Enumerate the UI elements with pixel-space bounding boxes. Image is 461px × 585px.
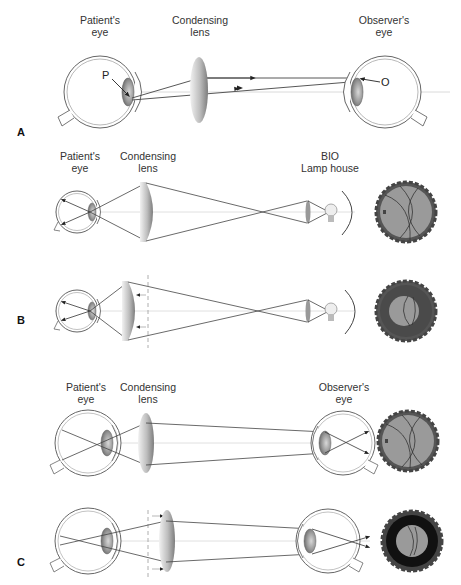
label-line: Lamp house: [301, 162, 359, 174]
label-line: Patient's: [80, 14, 120, 26]
label-line: Observer's: [319, 381, 369, 393]
reflector: [345, 290, 355, 334]
condensing-lens-b2: [122, 281, 135, 341]
panel-b-bottom: [54, 275, 436, 348]
fundus-view-c1: [378, 411, 438, 471]
panel-a: [58, 56, 450, 128]
label-line: lens: [120, 162, 176, 174]
label-observer-eye-a: Observer's eye: [359, 14, 409, 38]
label-line: Patient's: [60, 150, 100, 162]
label-line: eye: [60, 162, 100, 174]
label-line: Observer's: [359, 14, 409, 26]
label-patient-eye-c: Patient's eye: [66, 381, 106, 405]
bulb-icon: [325, 303, 337, 321]
panel-b-top: [54, 182, 436, 242]
condensing-lens-c2: [159, 510, 175, 572]
bio-lens-b2: [306, 299, 311, 323]
condensing-lens-b1: [140, 182, 153, 242]
label-condensing-lens-a: Condensing lens: [172, 14, 228, 38]
bulb-icon: [325, 204, 337, 222]
point-p-label: P: [102, 69, 109, 81]
label-observer-eye-c: Observer's eye: [319, 381, 369, 405]
label-patient-eye-b: Patient's eye: [60, 150, 100, 174]
panel-letter-b: B: [17, 314, 25, 326]
point-o-label: O: [381, 76, 390, 88]
label-patient-eye-a: Patient's eye: [80, 14, 120, 38]
patient-eye-a: [58, 56, 142, 128]
label-bio-lamp-house: BIO Lamp house: [301, 150, 359, 174]
patient-eye-c2: [50, 508, 121, 574]
label-line: eye: [80, 26, 120, 38]
panel-letter-a: A: [17, 126, 25, 138]
fundus-view-b2: [376, 281, 436, 341]
fundus-view-c2: [382, 511, 442, 571]
panel-c-top: [50, 410, 438, 476]
patient-eye-b1: [54, 191, 101, 233]
fundus-view-b1: [376, 182, 436, 242]
condensing-lens-c1: [138, 413, 154, 473]
label-line: Condensing: [172, 14, 228, 26]
panel-c-bottom: [50, 508, 442, 577]
label-line: eye: [319, 393, 369, 405]
observer-eye-a: [344, 56, 428, 128]
optics-diagram: [0, 0, 461, 585]
label-line: eye: [359, 26, 409, 38]
label-line: eye: [66, 393, 106, 405]
label-condensing-lens-b: Condensing lens: [120, 150, 176, 174]
patient-eye-b2: [54, 290, 101, 332]
label-line: lens: [120, 393, 176, 405]
label-line: Condensing: [120, 150, 176, 162]
label-condensing-lens-c: Condensing lens: [120, 381, 176, 405]
panel-letter-c: C: [17, 556, 25, 568]
condensing-lens-a: [190, 57, 208, 123]
reflector: [342, 191, 352, 235]
label-line: Condensing: [120, 381, 176, 393]
observer-eye-c2: [296, 509, 363, 573]
label-line: Patient's: [66, 381, 106, 393]
label-line: lens: [172, 26, 228, 38]
label-line: BIO: [301, 150, 359, 162]
patient-eye-c1: [50, 410, 121, 476]
bio-lens-b1: [306, 200, 311, 224]
